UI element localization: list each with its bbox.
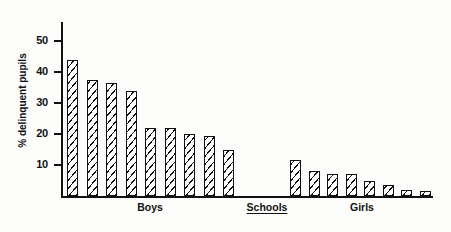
bar-boys-3 xyxy=(106,83,117,196)
bar-boys-9 xyxy=(223,150,234,197)
y-axis-tick-label: 40 xyxy=(18,66,50,78)
y-axis-tick xyxy=(54,133,63,135)
x-axis-group-label-schools: Schools xyxy=(222,202,312,214)
y-axis-tick xyxy=(54,71,63,73)
y-axis-tick-label-text: 20 xyxy=(18,128,48,139)
chart-page: % delinquent pupils 1020304050 BoysSchoo… xyxy=(0,0,451,232)
bar-boys-5 xyxy=(145,128,156,196)
bar-boys-7 xyxy=(184,134,195,196)
x-axis-group-label-girls: Girls xyxy=(322,202,402,214)
bar-girls-3 xyxy=(327,174,338,196)
y-axis-tick-label: 50 xyxy=(18,35,50,47)
y-axis-tick xyxy=(54,40,63,42)
y-axis-tick-label-text: 10 xyxy=(18,159,48,170)
y-axis-tick xyxy=(54,102,63,104)
plot-area: % delinquent pupils 1020304050 BoysSchoo… xyxy=(0,0,451,232)
bar-boys-1 xyxy=(67,60,78,196)
bar-boys-6 xyxy=(165,128,176,196)
bar-girls-8 xyxy=(420,191,431,196)
bar-boys-8 xyxy=(204,136,215,196)
bar-girls-7 xyxy=(401,190,412,196)
y-axis-tick-label: 10 xyxy=(18,159,50,171)
bar-girls-2 xyxy=(309,171,320,196)
y-axis-tick-label-text: 50 xyxy=(18,35,48,46)
bar-boys-2 xyxy=(87,80,98,196)
y-axis-tick-label: 30 xyxy=(18,97,50,109)
bar-girls-5 xyxy=(364,181,375,197)
y-axis-tick-label-text: 40 xyxy=(18,66,48,77)
bar-girls-6 xyxy=(383,185,394,196)
y-axis-tick xyxy=(54,164,63,166)
y-axis-tick-label-text: 30 xyxy=(18,97,48,108)
bar-girls-4 xyxy=(346,174,357,196)
bar-boys-4 xyxy=(126,91,137,196)
x-axis-group-label-boys: Boys xyxy=(110,202,190,214)
y-axis-tick-label: 20 xyxy=(18,128,50,140)
bar-girls-1 xyxy=(290,160,301,196)
